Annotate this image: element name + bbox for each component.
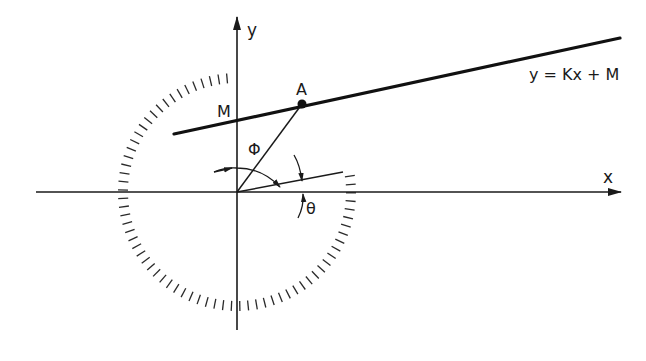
tick-mark: [139, 124, 147, 130]
tick-mark: [286, 290, 291, 299]
tick-mark: [132, 244, 141, 249]
tick-mark: [335, 239, 344, 243]
tick-mark: [134, 132, 143, 137]
tick-mark: [119, 206, 129, 207]
tick-mark: [312, 271, 319, 278]
tick-mark: [256, 299, 258, 309]
tick-mark: [120, 214, 130, 216]
tick-mark: [137, 251, 146, 256]
tick-mark: [263, 298, 265, 308]
tick-mark: [231, 301, 232, 311]
tick-mark: [227, 74, 228, 84]
tick-mark: [201, 79, 204, 89]
tick-mark: [343, 217, 353, 219]
tick-mark: [339, 232, 348, 236]
tick-mark: [147, 264, 155, 271]
tick-mark: [218, 75, 220, 85]
tick-mark: [163, 99, 169, 107]
tick-mark: [318, 266, 325, 273]
tick-mark: [181, 288, 186, 297]
angle-phi-label: Φ: [248, 140, 261, 159]
tick-mark: [323, 259, 331, 265]
diagram-canvas: y x y = Kx + M M A Φ θ: [0, 0, 646, 361]
tick-mark: [332, 246, 341, 251]
tick-mark: [193, 82, 197, 91]
tick-mark: [142, 257, 150, 263]
tick-mark: [345, 175, 355, 176]
tick-mark: [127, 147, 136, 151]
tick-mark: [156, 105, 163, 112]
tick-mark: [118, 198, 128, 199]
tick-mark: [197, 295, 200, 304]
tick-mark: [185, 85, 189, 94]
tick-mark: [189, 292, 193, 301]
tick-mark: [121, 164, 131, 166]
tick-mark: [300, 281, 306, 289]
point-a: [298, 100, 307, 109]
tick-mark: [125, 229, 134, 232]
tick-mark: [119, 181, 129, 182]
tick-mark: [160, 275, 167, 283]
line-equation-label: y = Kx + M: [529, 65, 619, 84]
line-y-kx-m: [174, 38, 620, 134]
tick-mark: [166, 280, 172, 288]
tick-mark: [153, 269, 160, 276]
tick-mark: [120, 173, 130, 175]
angle-theta-label: θ: [306, 199, 316, 218]
point-a-label: A: [296, 80, 307, 99]
x-axis-label: x: [603, 167, 613, 187]
tick-mark: [130, 140, 139, 144]
tick-mark: [341, 224, 351, 227]
ray-theta: [237, 172, 343, 192]
tick-mark: [293, 286, 298, 295]
y-axis-label: y: [247, 20, 257, 40]
angle-theta-arc-bottom: [298, 194, 303, 218]
tick-mark: [279, 293, 283, 302]
tick-mark: [248, 301, 249, 311]
tick-mark: [345, 209, 355, 211]
intercept-m-label: M: [217, 102, 231, 121]
tick-mark: [209, 76, 211, 86]
tick-mark: [124, 156, 134, 159]
tick-mark: [177, 89, 182, 98]
tick-mark: [144, 117, 152, 123]
tick-mark: [205, 297, 208, 307]
angle-theta-arc-top: [294, 155, 302, 181]
tick-mark: [174, 284, 179, 293]
tick-mark: [214, 299, 216, 309]
tick-mark: [129, 237, 138, 241]
tick-mark: [271, 296, 274, 306]
tick-mark: [223, 300, 224, 310]
tick-mark: [306, 277, 312, 285]
tick-mark: [123, 222, 133, 225]
tick-mark: [150, 111, 157, 118]
tick-mark: [170, 94, 176, 102]
tick-mark: [346, 201, 356, 202]
tick-mark: [346, 184, 356, 185]
tick-mark: [327, 253, 335, 259]
